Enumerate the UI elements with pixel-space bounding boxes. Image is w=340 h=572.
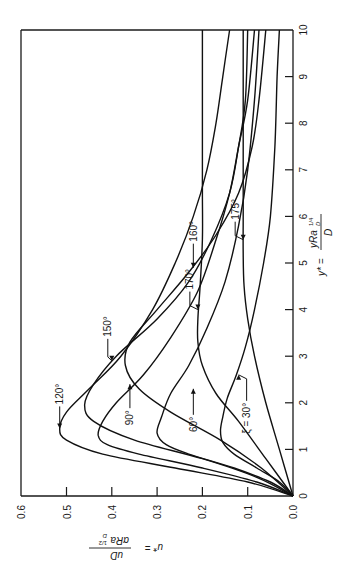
u-tick-label: 0.1 <box>243 505 254 519</box>
y-tick-label: 9 <box>298 73 309 79</box>
u-star-symbol: u* = <box>145 542 163 553</box>
curve-label: 120° <box>54 384 65 405</box>
y-star-num-sup: 1/4 <box>308 217 314 226</box>
y-tick-label: 4 <box>298 306 309 312</box>
y-star-axis-label: y* = yRa D 1/4 D <box>308 214 334 277</box>
curve-label: 160° <box>188 221 199 242</box>
u-star-numerator: uD <box>110 550 123 561</box>
y-star-symbol: y* = <box>316 258 327 277</box>
u-star-den-sub: D <box>102 533 107 539</box>
velocity-profile-chart: 0.00.10.20.30.40.50.6 012345678910 120°1… <box>0 0 340 572</box>
plot-frame <box>21 30 293 496</box>
u-star-denominator: αRa <box>110 535 129 546</box>
y-tick-label: 3 <box>298 353 309 359</box>
y-tick-label: 0 <box>298 493 309 499</box>
u-tick-label: 0.3 <box>152 505 163 519</box>
y-tick-label: 2 <box>298 400 309 406</box>
curve-120deg <box>60 30 293 496</box>
y-star-denominator: D <box>323 229 334 236</box>
curves <box>60 30 293 496</box>
curve-label: 90° <box>124 410 135 425</box>
u-tick-label: 0.5 <box>62 505 73 519</box>
curve-30deg <box>221 30 294 496</box>
y-tick-label: 7 <box>298 167 309 173</box>
u-tick-label: 0.4 <box>107 505 118 519</box>
y-tick-label: 1 <box>298 446 309 452</box>
curve-labels: 120°150°160°90°170°175°60°ξ = 30° <box>54 199 253 434</box>
u-tick-label: 0.2 <box>197 505 208 519</box>
curve-label: 175° <box>230 199 241 220</box>
curve-label: 60° <box>188 417 199 432</box>
y-tick-label: 10 <box>298 24 309 36</box>
curve-label: ξ = 30° <box>241 403 253 434</box>
y-star-numerator: yRa <box>308 230 319 249</box>
u-tick-label: 0.0 <box>288 505 299 519</box>
u-star-axis-label: u* = uD αRa D 1/2 <box>89 533 163 561</box>
y-tick-label: 5 <box>298 260 309 266</box>
y-star-num-sub: D <box>315 221 321 226</box>
u-star-den-sup: 1/2 <box>98 540 107 546</box>
y-tick-label: 8 <box>298 120 309 126</box>
y-star-ticks: 012345678910 <box>285 24 309 499</box>
u-star-ticks: 0.00.10.20.30.40.50.6 <box>16 487 299 519</box>
curve-label: 170° <box>184 269 195 290</box>
u-tick-label: 0.6 <box>16 505 27 519</box>
curve-label: 150° <box>102 316 113 337</box>
